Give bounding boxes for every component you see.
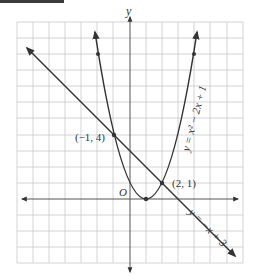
point-dot: [192, 52, 196, 56]
axes: [22, 17, 238, 272]
line-equation-label: y = −x + 3: [186, 205, 230, 249]
intersection-point-a: [112, 133, 116, 137]
origin-label: O: [119, 186, 127, 198]
graph: y O (−1, 4) (2, 1) y = x² − 2x + 1 y = −…: [0, 0, 264, 276]
vertex-point: [144, 197, 148, 201]
intersection-point-b: [160, 181, 164, 185]
point-dot: [96, 52, 100, 56]
y-axis-label: y: [125, 4, 132, 18]
point-b-label: (2, 1): [172, 177, 196, 190]
point-a-label: (−1, 4): [75, 131, 105, 144]
